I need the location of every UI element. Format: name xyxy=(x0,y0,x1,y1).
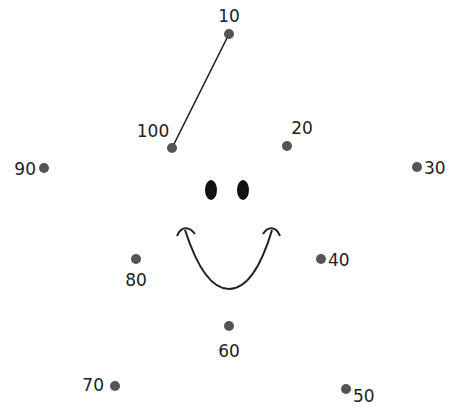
dot-number-label: 20 xyxy=(291,118,313,138)
dot-50[interactable]: 50 xyxy=(341,384,375,406)
right-eye xyxy=(237,180,249,200)
dot-30[interactable]: 30 xyxy=(412,158,446,178)
dot-marker[interactable] xyxy=(224,321,234,331)
dot-60[interactable]: 60 xyxy=(218,321,240,361)
dot-marker[interactable] xyxy=(282,141,292,151)
drawn-lines xyxy=(172,34,229,148)
dot-number-label: 40 xyxy=(328,250,350,270)
left-eye xyxy=(205,180,217,200)
dot-number-label: 90 xyxy=(14,159,36,179)
smiley-face xyxy=(177,180,280,289)
dot-10[interactable]: 10 xyxy=(218,6,240,39)
dot-number-label: 60 xyxy=(218,341,240,361)
dot-marker[interactable] xyxy=(110,381,120,391)
dot-marker[interactable] xyxy=(224,29,234,39)
drawn-segment xyxy=(172,34,229,148)
numbered-dots: 102030405060708090100 xyxy=(14,6,445,406)
dot-marker[interactable] xyxy=(316,254,326,264)
dot-number-label: 70 xyxy=(82,375,104,395)
dot-marker[interactable] xyxy=(39,163,49,173)
dot-70[interactable]: 70 xyxy=(82,375,120,395)
dot-number-label: 80 xyxy=(125,270,147,290)
dot-20[interactable]: 20 xyxy=(282,118,313,151)
dot-number-label: 10 xyxy=(218,6,240,26)
dot-40[interactable]: 40 xyxy=(316,250,350,270)
dot-number-label: 100 xyxy=(137,121,169,141)
smile-mouth xyxy=(177,228,280,289)
dot-to-dot-worksheet: 102030405060708090100 xyxy=(0,0,459,407)
dot-number-label: 50 xyxy=(353,386,375,406)
dot-marker[interactable] xyxy=(341,384,351,394)
dot-number-label: 30 xyxy=(424,158,446,178)
dot-marker[interactable] xyxy=(131,254,141,264)
dot-90[interactable]: 90 xyxy=(14,159,49,179)
dot-marker[interactable] xyxy=(167,143,177,153)
dot-80[interactable]: 80 xyxy=(125,254,147,290)
dot-100[interactable]: 100 xyxy=(137,121,177,153)
dot-marker[interactable] xyxy=(412,162,422,172)
